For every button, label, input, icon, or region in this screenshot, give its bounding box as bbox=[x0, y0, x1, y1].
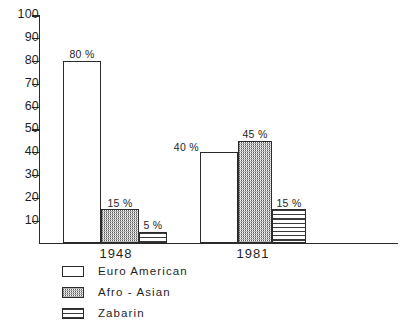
bar-1948-euro-american: 80 % bbox=[63, 61, 101, 243]
bar-value-label: 15 % bbox=[276, 198, 301, 209]
legend-label: Afro - Asian bbox=[98, 286, 171, 300]
legend-swatch-plain-icon bbox=[62, 266, 84, 277]
x-axis-group-label-1981: 1981 bbox=[237, 247, 270, 260]
legend-label: Zabarin bbox=[98, 307, 145, 321]
legend-swatch-hlines-icon bbox=[62, 308, 84, 319]
bar-1948-afro-asian: 15 % bbox=[101, 209, 139, 243]
bar-value-label: 5 % bbox=[144, 220, 163, 231]
bar-1981-afro-asian: 45 % bbox=[238, 141, 272, 244]
bar-value-label: 40 % bbox=[174, 142, 199, 153]
legend-swatch-dotted-icon bbox=[62, 287, 84, 298]
bar-1948-zabarin: 5 % bbox=[139, 232, 167, 243]
bar-chart: 100 90 80 70 60 50 40 30 bbox=[0, 0, 418, 336]
bar-value-label: 15 % bbox=[107, 198, 132, 209]
bar-1981-euro-american: 40 % bbox=[200, 152, 238, 243]
x-axis-group-label-1948: 1948 bbox=[100, 247, 133, 260]
bars-layer: 80 % 15 % 5 % 40 % 45 % 15 % bbox=[0, 0, 418, 243]
bar-1981-zabarin: 15 % bbox=[272, 209, 306, 243]
bar-value-label: 80 % bbox=[69, 49, 94, 60]
bar-value-label: 45 % bbox=[242, 129, 267, 140]
legend-label: Euro American bbox=[98, 265, 188, 279]
